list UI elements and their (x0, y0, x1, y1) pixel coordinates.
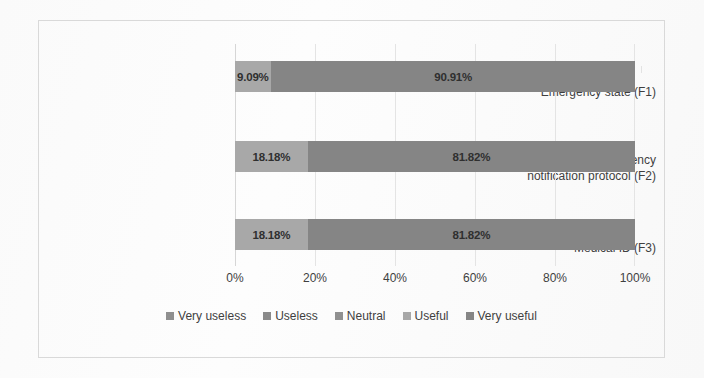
legend-swatch-icon-very-useless (166, 312, 174, 320)
x-tick-60: 60% (463, 271, 487, 285)
legend-swatch-icon-useful (403, 312, 411, 320)
x-tick-40: 40% (383, 271, 407, 285)
x-tick-20: 20% (303, 271, 327, 285)
chart-legend: Very useless Useless Neutral Useful Very… (39, 309, 664, 323)
bar-label-useful-f2: 18.18% (252, 151, 290, 163)
x-tick-0: 0% (226, 271, 243, 285)
x-tick-100: 100% (620, 271, 651, 285)
bar-segment-very-useful-f3[interactable]: 81.82% (308, 219, 635, 250)
bar-label-very-useful-f2: 81.82% (452, 151, 490, 163)
chart-frame: Emergency state (F1) Personalisable emer… (38, 20, 665, 358)
bar-segment-useful-f2[interactable]: 18.18% (235, 141, 308, 172)
legend-label-very-useful: Very useful (478, 309, 537, 323)
bar-label-very-useful-f3: 81.82% (452, 229, 490, 241)
bar-segment-very-useful-f1[interactable]: 90.91% (271, 61, 635, 92)
bar-label-useful-f1: 9.09% (237, 71, 269, 83)
scan-artifact-mark (641, 66, 642, 73)
bar-segment-very-useful-f2[interactable]: 81.82% (308, 141, 635, 172)
bar-row-f3: 18.18% 81.82% (235, 219, 635, 250)
bar-row-f2: 18.18% 81.82% (235, 141, 635, 172)
legend-item-useless[interactable]: Useless (263, 309, 318, 323)
bar-segment-useful-f1[interactable]: 9.09% (235, 61, 271, 92)
bar-row-f1: 9.09% 90.91% (235, 61, 635, 92)
legend-swatch-icon-useless (263, 312, 271, 320)
plot-area: 9.09% 90.91% 18.18% 81.82% 18.18% 81.82% (235, 44, 635, 266)
bar-label-very-useful-f1: 90.91% (434, 71, 472, 83)
legend-item-neutral[interactable]: Neutral (335, 309, 386, 323)
legend-label-useless: Useless (275, 309, 318, 323)
legend-item-useful[interactable]: Useful (403, 309, 449, 323)
bar-label-useful-f3: 18.18% (252, 229, 290, 241)
value-axis-tick-labels: 0% 20% 40% 60% 80% 100% (235, 271, 635, 289)
bar-segment-useful-f3[interactable]: 18.18% (235, 219, 308, 250)
legend-swatch-icon-very-useful (466, 312, 474, 320)
legend-item-very-useful[interactable]: Very useful (466, 309, 537, 323)
legend-label-neutral: Neutral (347, 309, 386, 323)
x-tick-80: 80% (543, 271, 567, 285)
legend-swatch-icon-neutral (335, 312, 343, 320)
legend-label-very-useless: Very useless (178, 309, 246, 323)
legend-item-very-useless[interactable]: Very useless (166, 309, 246, 323)
legend-label-useful: Useful (415, 309, 449, 323)
